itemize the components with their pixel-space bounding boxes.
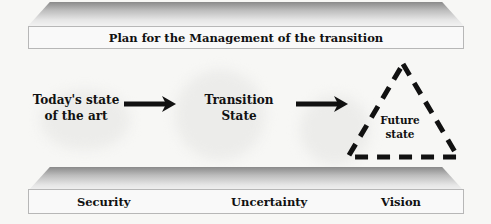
pillar-vision: Vision xyxy=(381,195,421,209)
arrow-right-icon xyxy=(296,96,348,112)
bottom-banner-bevel xyxy=(28,167,464,191)
pillar-uncertainty: Uncertainty xyxy=(231,195,307,209)
bottom-banner-box: Security Uncertainty Vision xyxy=(28,189,464,214)
bottom-banner: Security Uncertainty Vision xyxy=(28,167,464,215)
arrow-right-icon xyxy=(124,96,176,112)
dashed-triangle-icon xyxy=(348,64,458,157)
pillar-security: Security xyxy=(77,195,130,209)
